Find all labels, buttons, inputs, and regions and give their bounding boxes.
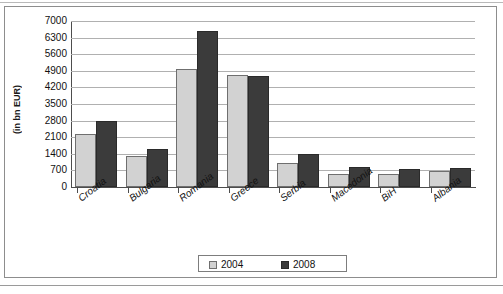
y-axis-tick-label: 6300 (27, 33, 67, 43)
y-axis-tick-label: 5600 (27, 49, 67, 59)
page-rule-top (0, 2, 503, 3)
gridline (71, 137, 475, 138)
bar-romania-2008 (197, 31, 218, 188)
bar-romania-2004 (176, 69, 197, 187)
bar-bih-2004 (378, 174, 399, 187)
y-axis-tick-label: 4200 (27, 82, 67, 92)
gridline (71, 21, 475, 22)
gridline (71, 121, 475, 122)
legend-item-2004: 2004 (209, 259, 243, 270)
y-axis-tick-labels: 7000630056004900420035002800210014007000 (26, 21, 67, 188)
y-axis-title: (in bn EUR) (8, 60, 26, 160)
y-axis-tick-label: 0 (27, 182, 67, 192)
chart-figure: (in bn EUR) 7000630056004900420035002800… (0, 0, 503, 294)
bar-greece-2008 (248, 76, 269, 187)
bar-greece-2004 (227, 75, 248, 187)
y-axis-tick-label: 2100 (27, 132, 67, 142)
gridline (71, 54, 475, 55)
legend-item-2008: 2008 (281, 259, 315, 270)
gridline (71, 87, 475, 88)
y-axis-tick-label: 700 (27, 165, 67, 175)
gridline (71, 104, 475, 105)
bar-croatia-2004 (75, 134, 96, 187)
gridline (71, 154, 475, 155)
y-axis-tick-label: 7000 (27, 16, 67, 26)
legend-label-2004: 2004 (221, 259, 243, 270)
page-rule-bottom (0, 285, 503, 286)
y-axis-tick-label: 1400 (27, 149, 67, 159)
x-axis-line (71, 187, 476, 188)
y-axis-tick-label: 2800 (27, 116, 67, 126)
y-axis-tick-label: 3500 (27, 99, 67, 109)
legend-swatch-2004 (209, 261, 217, 269)
legend-label-2008: 2008 (293, 259, 315, 270)
plot-area (71, 21, 475, 187)
chart-legend: 2004 2008 (198, 255, 347, 272)
legend-swatch-2008 (281, 261, 289, 269)
gridline (71, 71, 475, 72)
gridline (71, 38, 475, 39)
bar-bih-2008 (399, 169, 420, 187)
y-axis-tick-label: 4900 (27, 66, 67, 76)
